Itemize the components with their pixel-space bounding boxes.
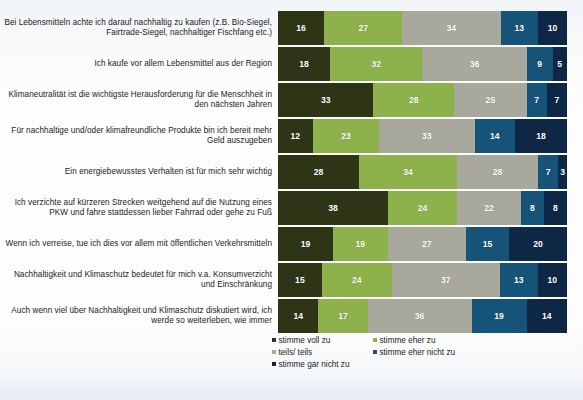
chart-segment: 23 <box>313 119 379 153</box>
chart-segment: 32 <box>330 47 422 81</box>
chart-segment: 13 <box>501 11 539 45</box>
chart-segment: 20 <box>509 227 567 261</box>
chart-row: Auch wenn viel über Nachhaltigkeit und K… <box>0 299 583 333</box>
chart-row-bar: 1223331418 <box>278 119 567 153</box>
chart-row-label: Bei Lebensmitteln achte ich darauf nachh… <box>0 18 278 38</box>
chart-segment: 18 <box>278 47 330 81</box>
chart-segment: 38 <box>278 191 388 225</box>
chart-segment: 15 <box>466 227 509 261</box>
legend-item-label: teils/ teils <box>279 348 313 357</box>
legend-row: stimme voll zu stimme eher zu <box>272 334 572 346</box>
chart-plot-area: Bei Lebensmitteln achte ich darauf nachh… <box>0 11 583 335</box>
legend-item-label: stimme eher zu <box>380 336 436 345</box>
legend-swatch-icon <box>373 338 377 342</box>
chart-segment: 34 <box>402 11 500 45</box>
legend-swatch-icon <box>272 338 276 342</box>
chart-row-label: Ich kaufe vor allem Lebensmittel aus der… <box>0 59 278 69</box>
chart-segment: 24 <box>322 263 392 297</box>
legend-item-stimme-eher-zu[interactable]: stimme eher zu <box>373 336 435 345</box>
chart-segment: 10 <box>538 263 567 297</box>
chart-segment: 19 <box>333 227 388 261</box>
legend-item-label: stimme voll zu <box>279 336 331 345</box>
chart-segment: 37 <box>392 263 500 297</box>
chart-segment: 8 <box>544 191 567 225</box>
chart-segment: 14 <box>527 299 567 333</box>
chart-segment: 7 <box>538 155 558 189</box>
chart-row-bar: 1919271520 <box>278 227 567 261</box>
chart-segment: 28 <box>278 155 359 189</box>
chart-segment: 14 <box>475 119 515 153</box>
chart-row-label: Wenn ich verreise, tue ich dies vor alle… <box>0 239 278 249</box>
legend-row: stimme gar nicht zu <box>272 358 572 370</box>
legend-item-stimme-eher-nicht-zu[interactable]: stimme eher nicht zu <box>373 348 455 357</box>
chart-row-bar: 33282577 <box>278 83 567 117</box>
chart-segment: 33 <box>278 83 373 117</box>
chart-row-bar: 28342873 <box>278 155 567 189</box>
chart-segment: 19 <box>472 299 527 333</box>
chart-row-label: Ich verzichte auf kürzeren Strecken weit… <box>0 198 278 218</box>
chart-row-label: Ein energiebewusstes Verhalten ist für m… <box>0 167 278 177</box>
legend-item-stimme-gar-nicht-zu[interactable]: stimme gar nicht zu <box>272 360 373 369</box>
chart-segment: 10 <box>538 11 567 45</box>
legend-item-teils-teils[interactable]: teils/ teils <box>272 348 373 357</box>
chart-segment: 28 <box>457 155 538 189</box>
legend-item-stimme-voll-zu[interactable]: stimme voll zu <box>272 336 373 345</box>
chart-segment: 14 <box>278 299 318 333</box>
chart-row: Für nachhaltige und/oder klimafreundlich… <box>0 119 583 153</box>
chart-segment: 18 <box>515 119 567 153</box>
chart-legend: stimme voll zu stimme eher zu teils/ tei… <box>272 334 572 370</box>
page-bottom-wash <box>0 378 583 400</box>
chart-segment: 27 <box>388 227 466 261</box>
chart-row: Wenn ich verreise, tue ich dies vor alle… <box>0 227 583 261</box>
chart-segment: 27 <box>324 11 402 45</box>
chart-segment: 17 <box>318 299 367 333</box>
chart-row-bar: 38242288 <box>278 191 567 225</box>
chart-row-bar: 1627341310 <box>278 11 567 45</box>
chart-row-label: Nachhaltigkeit und Klimaschutz bedeutet … <box>0 270 278 290</box>
chart-segment: 8 <box>521 191 544 225</box>
legend-swatch-icon <box>373 350 377 354</box>
chart-segment: 33 <box>379 119 474 153</box>
chart-row: Klimaneutralität ist die wichtigste Hera… <box>0 83 583 117</box>
chart-segment: 3 <box>558 155 567 189</box>
chart-row: Ich kaufe vor allem Lebensmittel aus der… <box>0 47 583 81</box>
legend-swatch-icon <box>272 350 276 354</box>
chart-row-label: Für nachhaltige und/oder klimafreundlich… <box>0 126 278 146</box>
chart-segment: 16 <box>278 11 324 45</box>
chart-segment: 36 <box>368 299 472 333</box>
chart-row: Ein energiebewusstes Verhalten ist für m… <box>0 155 583 189</box>
chart-row: Nachhaltigkeit und Klimaschutz bedeutet … <box>0 263 583 297</box>
chart-segment: 28 <box>373 83 454 117</box>
chart-row-bar: 18323695 <box>278 47 567 81</box>
chart-segment: 19 <box>278 227 333 261</box>
chart-segment: 25 <box>454 83 526 117</box>
legend-item-label: stimme gar nicht zu <box>279 360 350 369</box>
chart-row-bar: 1417361914 <box>278 299 567 333</box>
chart-segment: 24 <box>388 191 457 225</box>
legend-swatch-icon <box>272 362 276 366</box>
chart-segment: 36 <box>422 47 526 81</box>
chart-row: Ich verzichte auf kürzeren Strecken weit… <box>0 191 583 225</box>
chart-segment: 22 <box>457 191 521 225</box>
chart-row-label: Klimaneutralität ist die wichtigste Hera… <box>0 90 278 110</box>
chart-segment: 34 <box>359 155 457 189</box>
chart-row-bar: 1524371310 <box>278 263 567 297</box>
chart-row: Bei Lebensmitteln achte ich darauf nachh… <box>0 11 583 45</box>
chart-segment: 7 <box>527 83 547 117</box>
stacked-bar-chart: Bei Lebensmitteln achte ich darauf nachh… <box>0 0 583 400</box>
legend-row: teils/ teils stimme eher nicht zu <box>272 346 572 358</box>
chart-row-label: Auch wenn viel über Nachhaltigkeit und K… <box>0 306 278 326</box>
chart-segment: 15 <box>278 263 322 297</box>
chart-segment: 7 <box>547 83 567 117</box>
chart-segment: 9 <box>527 47 553 81</box>
chart-segment: 12 <box>278 119 313 153</box>
chart-segment: 13 <box>500 263 538 297</box>
legend-item-label: stimme eher nicht zu <box>380 348 456 357</box>
chart-segment: 5 <box>553 47 567 81</box>
